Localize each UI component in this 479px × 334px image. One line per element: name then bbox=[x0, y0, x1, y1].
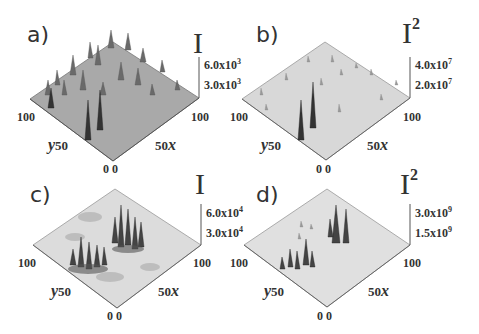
panel-label: d) bbox=[256, 182, 279, 207]
origin-ticks: 0 0 bbox=[317, 309, 332, 324]
panel-d: d) I2 3.0x109 1.5x109 100 100 y50 50x 0 … bbox=[240, 167, 479, 334]
x-axis-label: 50x bbox=[367, 136, 388, 154]
x-tick-100: 100 bbox=[193, 256, 211, 271]
z-tick-high: 4.0x107 bbox=[415, 57, 452, 73]
panel-b: b) I2 4.0x107 2.0x107 100 100 y50 50x 0 … bbox=[240, 0, 479, 167]
y-axis-label: y50 bbox=[264, 282, 284, 300]
x-tick-100: 100 bbox=[403, 256, 421, 271]
z-axis-symbol: I bbox=[193, 28, 203, 58]
y-tick-100: 100 bbox=[18, 256, 36, 271]
panel-c: c) I 6.0x104 3.0x104 100 100 y50 50x 0 0 bbox=[0, 167, 240, 334]
y-tick-100: 100 bbox=[230, 256, 248, 271]
z-tick-low: 3.0x103 bbox=[204, 77, 241, 93]
z-tick-high: 6.0x103 bbox=[204, 57, 241, 73]
panel-label: c) bbox=[30, 182, 51, 207]
z-tick-low: 3.0x104 bbox=[206, 225, 243, 241]
x-axis-label: 50x bbox=[158, 282, 179, 300]
z-tick-low: 2.0x107 bbox=[415, 77, 452, 93]
x-tick-100: 100 bbox=[191, 110, 209, 125]
panel-label: b) bbox=[256, 22, 279, 47]
y-axis-label: y50 bbox=[51, 282, 71, 300]
x-axis-label: 50x bbox=[155, 136, 176, 154]
y-axis-label: y50 bbox=[48, 136, 68, 154]
x-axis-label: 50x bbox=[368, 282, 389, 300]
panel-label: a) bbox=[27, 22, 49, 47]
y-tick-100: 100 bbox=[230, 110, 248, 125]
z-tick-low: 1.5x109 bbox=[415, 225, 452, 241]
y-tick-100: 100 bbox=[17, 110, 35, 125]
z-tick-high: 3.0x109 bbox=[415, 205, 452, 221]
origin-ticks: 0 0 bbox=[107, 309, 122, 324]
z-axis-symbol: I bbox=[195, 169, 205, 199]
y-axis-label: y50 bbox=[261, 136, 281, 154]
z-axis-symbol: I2 bbox=[400, 169, 418, 199]
z-tick-high: 6.0x104 bbox=[206, 205, 243, 221]
z-axis-symbol: I2 bbox=[402, 18, 420, 48]
x-tick-100: 100 bbox=[403, 110, 421, 125]
panel-a: a) I 6.0x103 3.0x103 100 100 y50 50x 0 0 bbox=[0, 0, 240, 167]
